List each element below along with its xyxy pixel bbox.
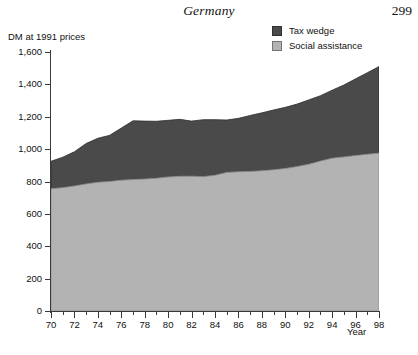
x-axis-tick: [168, 312, 169, 318]
y-axis-tick: [45, 117, 51, 118]
x-axis-minor-tick: [110, 312, 111, 315]
x-axis-minor-tick: [250, 312, 251, 315]
x-axis-tick: [332, 312, 333, 318]
figure-caption-cropped: [18, 350, 348, 355]
x-axis-minor-tick: [320, 312, 321, 315]
x-axis-minor-tick: [367, 312, 368, 315]
x-axis-tick-label: 82: [186, 320, 197, 330]
x-axis-tick-label: 84: [210, 320, 221, 330]
x-axis-tick: [262, 312, 263, 318]
x-axis-tick: [98, 312, 99, 318]
y-axis-tick: [45, 214, 51, 215]
x-axis-tick: [192, 312, 193, 318]
x-axis-minor-tick: [63, 312, 64, 315]
x-axis-minor-tick: [86, 312, 87, 315]
x-axis-tick-label: 80: [163, 320, 174, 330]
x-axis-tick: [215, 312, 216, 318]
x-axis-minor-tick: [227, 312, 228, 315]
x-axis-tick: [121, 312, 122, 318]
x-axis-tick-label: 78: [139, 320, 150, 330]
page-number: 299: [392, 3, 412, 19]
x-axis-tick: [51, 312, 52, 318]
x-axis-tick-label: 98: [374, 320, 385, 330]
y-axis-tick-label: 1,000: [12, 144, 42, 154]
plot-area: [51, 52, 379, 311]
x-axis-tick: [238, 312, 239, 318]
legend-swatch-icon: [272, 41, 282, 51]
legend-label: Social assistance: [289, 41, 362, 51]
legend-item-tax-wedge: Tax wedge: [272, 26, 362, 36]
x-axis-tick-label: 92: [303, 320, 314, 330]
x-axis-tick: [285, 312, 286, 318]
x-axis-tick-label: 70: [46, 320, 57, 330]
y-axis-tick-label: 800: [12, 177, 42, 187]
x-axis-minor-tick: [156, 312, 157, 315]
legend-swatch-icon: [272, 26, 282, 36]
y-axis-tick: [45, 149, 51, 150]
x-axis-tick-label: 74: [93, 320, 104, 330]
x-axis-tick-label: 88: [257, 320, 268, 330]
stacked-area-chart: [51, 52, 379, 311]
x-axis-tick: [74, 312, 75, 318]
x-axis-tick-label: 76: [116, 320, 127, 330]
x-axis-minor-tick: [297, 312, 298, 315]
running-head: Germany: [0, 3, 418, 19]
y-axis-tick-label: 1,600: [12, 47, 42, 57]
x-axis-minor-tick: [203, 312, 204, 315]
x-axis-minor-tick: [274, 312, 275, 315]
x-axis-tick-label: 86: [233, 320, 244, 330]
legend-item-social-assistance: Social assistance: [272, 41, 362, 51]
x-axis-tick-label: 72: [69, 320, 80, 330]
x-axis-minor-tick: [344, 312, 345, 315]
y-axis-labels: 02004006008001,0001,2001,4001,600: [8, 0, 42, 355]
x-axis-tick-label: 94: [327, 320, 338, 330]
y-axis-tick-label: 600: [12, 209, 42, 219]
x-axis-tick-label: 96: [350, 320, 361, 330]
x-axis-minor-tick: [133, 312, 134, 315]
y-axis-tick-label: 400: [12, 241, 42, 251]
y-axis-tick-label: 1,200: [12, 112, 42, 122]
chart-legend: Tax wedge Social assistance: [272, 26, 362, 51]
y-axis-tick: [45, 279, 51, 280]
x-axis-tick: [356, 312, 357, 318]
x-axis-tick: [309, 312, 310, 318]
x-axis-tick: [145, 312, 146, 318]
y-axis-tick-label: 200: [12, 274, 42, 284]
figure-page: Germany 299 DM at 1991 prices Year Tax w…: [0, 0, 418, 355]
x-axis-tick-label: 90: [280, 320, 291, 330]
x-axis-minor-tick: [180, 312, 181, 315]
y-axis-tick: [45, 52, 51, 53]
y-axis-tick: [45, 182, 51, 183]
y-axis-tick: [45, 84, 51, 85]
y-axis-tick: [45, 246, 51, 247]
legend-label: Tax wedge: [289, 26, 334, 36]
x-axis-tick: [379, 312, 380, 318]
y-axis-tick-label: 1,400: [12, 79, 42, 89]
y-axis-tick-label: 0: [12, 306, 42, 316]
